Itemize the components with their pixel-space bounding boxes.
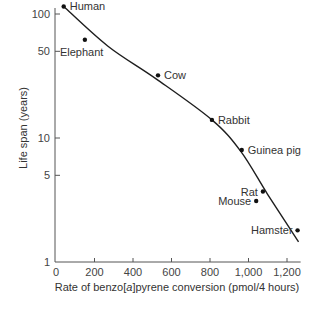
trend-line bbox=[64, 6, 299, 242]
point-label: Cow bbox=[164, 69, 186, 81]
y-tick-label: 100 bbox=[32, 8, 50, 20]
life-span-chart: 151050100 02004006008001,0001,200 HumanE… bbox=[0, 0, 315, 309]
y-axis-title: Life span (years) bbox=[17, 87, 29, 169]
y-tick-label: 1 bbox=[44, 256, 50, 268]
x-tick-label: 400 bbox=[124, 266, 142, 278]
point-label: Mouse bbox=[218, 195, 251, 207]
x-tick-label: 800 bbox=[201, 266, 219, 278]
x-tick-label: 200 bbox=[85, 266, 103, 278]
y-axis: 151050100 bbox=[32, 8, 60, 268]
data-point-elephant bbox=[83, 38, 87, 42]
data-point-mouse bbox=[254, 199, 258, 203]
x-tick-label: 0 bbox=[53, 266, 59, 278]
fit-curve bbox=[64, 6, 299, 242]
point-label: Elephant bbox=[60, 46, 103, 58]
y-tick-label: 10 bbox=[38, 132, 50, 144]
data-point-cow bbox=[156, 73, 160, 77]
x-tick-label: 1,200 bbox=[273, 266, 301, 278]
x-axis: 02004006008001,0001,200 bbox=[53, 258, 301, 278]
data-point-rat bbox=[261, 189, 265, 193]
point-label: Rabbit bbox=[218, 114, 250, 126]
x-axis-title: Rate of benzo[a]pyrene conversion (pmol/… bbox=[55, 281, 300, 293]
point-label: Hamster bbox=[251, 224, 293, 236]
data-point-guinea-pig bbox=[240, 148, 244, 152]
data-point-rabbit bbox=[210, 118, 214, 122]
point-label: Guinea pig bbox=[248, 144, 301, 156]
y-tick-label: 5 bbox=[44, 169, 50, 181]
x-tick-label: 600 bbox=[162, 266, 180, 278]
point-label: Human bbox=[70, 0, 105, 12]
data-point-human bbox=[62, 4, 66, 8]
y-tick-label: 50 bbox=[38, 45, 50, 57]
x-tick-label: 1,000 bbox=[235, 266, 263, 278]
data-point-hamster bbox=[295, 228, 299, 232]
